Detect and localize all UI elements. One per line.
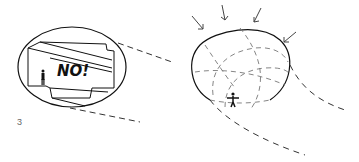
right-dash-lower xyxy=(210,100,305,155)
left-dash-lower xyxy=(70,108,140,122)
no-annotation: NO! xyxy=(57,62,89,80)
person-icon-right xyxy=(227,92,239,107)
right-panel xyxy=(192,5,345,155)
right-dash-upper xyxy=(290,65,345,110)
sketch-canvas: NO! xyxy=(0,0,359,162)
left-panel: NO! xyxy=(18,27,172,122)
left-dash-upper xyxy=(118,43,172,62)
figure-number: 3 xyxy=(17,117,22,127)
arrow-icons xyxy=(192,5,296,42)
person-icon-left xyxy=(42,70,45,86)
dome-outline xyxy=(192,30,290,100)
dome-grid xyxy=(195,28,290,110)
